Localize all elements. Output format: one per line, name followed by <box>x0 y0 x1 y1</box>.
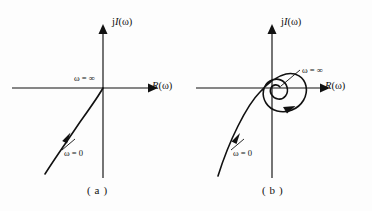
panel-b-locus-spiral <box>218 74 306 176</box>
panel-b-imaginary-axis-label: jI(ω) <box>281 17 301 28</box>
panel-b-omega-infinity-label: ω = ∞ <box>302 66 323 75</box>
panel-a-omega-infinity-label: ω = ∞ <box>74 74 95 83</box>
figure-root: jI(ω) R(ω) ω = ∞ ω = 0 ( a ) jI(ω) R(ω) … <box>0 0 372 211</box>
panel-a-real-axis-label-arg: (ω) <box>158 80 172 91</box>
panel-b-imaginary-axis-arrow-icon <box>268 24 277 34</box>
panel-a-group <box>12 24 158 178</box>
panel-b-omega-infinity-leader <box>281 70 300 86</box>
panel-b-real-axis-label-arg: (ω) <box>331 80 345 91</box>
panel-a-real-axis-label: R(ω) <box>152 81 172 92</box>
panel-a-imaginary-axis-label-arg: (ω) <box>118 16 132 27</box>
panel-b-imaginary-axis-label-arg: (ω) <box>287 16 301 27</box>
panel-b-omega-zero-label: ω = 0 <box>233 149 252 158</box>
panel-a-caption: ( a ) <box>87 185 108 196</box>
panel-b-real-axis-label: R(ω) <box>325 81 345 92</box>
panel-a-omega-zero-label: ω = 0 <box>64 149 83 158</box>
panel-a-locus-curve <box>45 88 103 174</box>
panel-a-imaginary-axis-label: jI(ω) <box>112 17 132 28</box>
panel-b-caption: ( b ) <box>262 185 283 196</box>
panel-a-imaginary-axis-arrow-icon <box>99 24 108 34</box>
panel-b-group <box>196 24 330 178</box>
nyquist-diagram-canvas <box>0 0 372 211</box>
